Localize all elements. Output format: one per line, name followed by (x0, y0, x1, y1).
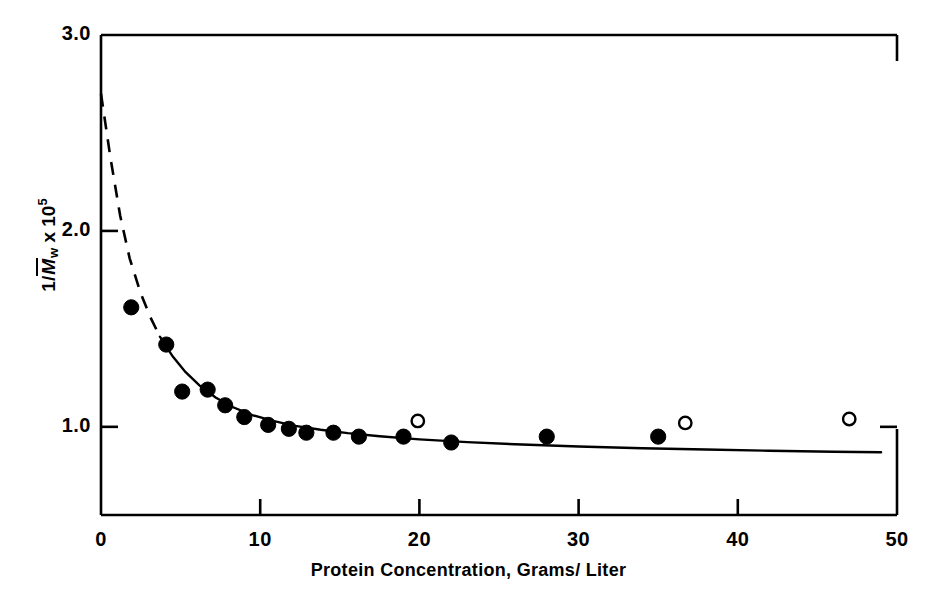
y-tick-label: 1.0 (45, 414, 91, 437)
data-point-filled (351, 429, 366, 444)
data-point-filled (396, 429, 411, 444)
x-tick-label: 0 (87, 528, 115, 551)
data-point-filled (444, 435, 459, 450)
x-tick-label: 20 (405, 528, 433, 551)
plot-canvas (0, 0, 937, 595)
x-tick-label: 30 (565, 528, 593, 551)
y-axis-prefix: 1/ (38, 276, 59, 292)
data-point-filled (281, 421, 296, 436)
data-point-filled (299, 425, 314, 440)
y-axis-times-text: x 10 (38, 206, 59, 243)
data-point-filled (159, 337, 174, 352)
y-axis-exponent: 5 (35, 198, 50, 205)
data-point-open (679, 417, 691, 429)
data-point-filled (326, 425, 341, 440)
data-point-filled (651, 429, 666, 444)
x-axis-title: Protein Concentration, Grams/ Liter (0, 560, 937, 581)
data-point-filled (124, 300, 139, 315)
data-point-filled (175, 384, 190, 399)
data-point-filled (237, 409, 252, 424)
data-point-filled (539, 429, 554, 444)
data-point-filled (200, 382, 215, 397)
y-axis-subscript: w (46, 248, 61, 258)
x-tick-label: 50 (883, 528, 911, 551)
y-axis-times (38, 243, 59, 248)
data-point-filled (218, 398, 233, 413)
x-tick-label: 40 (724, 528, 752, 551)
x-tick-label: 10 (246, 528, 274, 551)
data-point-open (412, 415, 424, 427)
data-point-filled (261, 417, 276, 432)
y-axis-title: 1/Mw x 105 (35, 145, 61, 345)
y-axis-symbol-mbar: M (38, 258, 59, 276)
y-tick-label: 3.0 (45, 22, 91, 45)
figure-background (0, 0, 937, 595)
data-point-open (843, 413, 855, 425)
chart-figure: 01020304050 1.02.03.0 1/Mw x 105 Protein… (0, 0, 937, 595)
